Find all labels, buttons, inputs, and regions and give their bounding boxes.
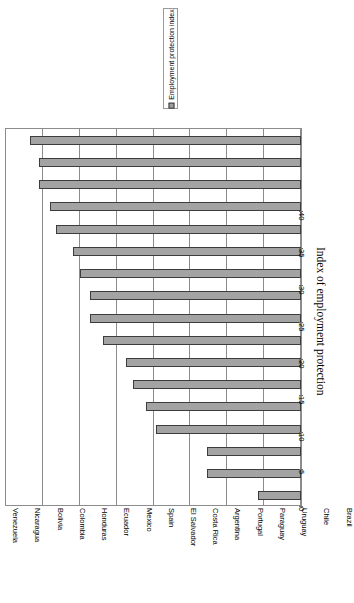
tick-label: 5 — [298, 470, 306, 488]
category-label: Ecuador — [123, 508, 131, 536]
value-axis-title: Index of employment protection — [315, 247, 327, 396]
category-label: Nicaragua — [34, 508, 42, 542]
bar-series — [6, 129, 301, 505]
tick-mark — [299, 432, 303, 433]
tick-mark — [299, 322, 303, 323]
tick-label: 20 — [298, 360, 306, 378]
bar — [30, 136, 301, 145]
bar — [90, 314, 301, 323]
bar — [207, 469, 301, 478]
category-label: Bolivia — [56, 508, 64, 530]
bar — [146, 402, 301, 411]
bar — [126, 358, 301, 367]
tick-mark — [299, 211, 303, 212]
tick-mark — [299, 359, 303, 360]
tick-mark — [299, 506, 303, 507]
bar — [56, 225, 301, 234]
legend-swatch-icon — [168, 102, 174, 108]
category-label: Chile — [323, 508, 331, 525]
category-label: Argentina — [234, 508, 242, 540]
bar — [39, 180, 301, 189]
tick-mark — [299, 395, 303, 396]
tick-label: 30 — [298, 286, 306, 304]
tick-mark — [299, 285, 303, 286]
category-label: Costa Rica — [212, 508, 220, 545]
tick-mark — [299, 469, 303, 470]
bar — [80, 269, 301, 278]
tick-label: 35 — [298, 249, 306, 267]
bar — [73, 247, 301, 256]
legend-label: Employment protection index — [167, 9, 174, 99]
category-label: Spain — [167, 508, 175, 527]
tick-mark — [299, 248, 303, 249]
category-label: Colombia — [78, 508, 86, 540]
category-label: Paraguay — [278, 508, 286, 540]
category-label: Honduras — [101, 508, 109, 541]
plot-area — [5, 128, 302, 506]
category-label: Portugal — [256, 508, 264, 536]
bar — [156, 425, 301, 434]
bar — [90, 291, 301, 300]
tick-label: 15 — [298, 396, 306, 414]
tick-label: 40 — [298, 212, 306, 230]
bar — [133, 380, 301, 389]
tick-label: 0 — [298, 507, 306, 525]
bar — [258, 491, 302, 500]
category-label: Brazil — [345, 508, 353, 527]
bar — [39, 158, 301, 167]
tick-label: 25 — [298, 323, 306, 341]
category-label: Venezuela — [12, 508, 20, 543]
category-label: El Salvador — [190, 508, 198, 546]
bar — [207, 447, 301, 456]
category-label: Mexico — [145, 508, 153, 532]
tick-label: 10 — [298, 433, 306, 451]
bar — [50, 202, 301, 211]
chart-legend: Employment protection index — [163, 8, 178, 109]
category-axis-labels: VenezuelaNicaraguaBoliviaColombiaHondura… — [0, 508, 310, 603]
bar — [103, 336, 301, 345]
